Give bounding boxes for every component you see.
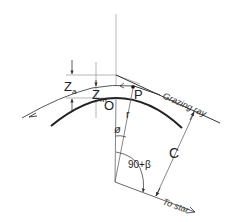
label-point-p: P <box>134 87 143 102</box>
label-grazing-ray: Grazing ray <box>161 91 208 119</box>
center-vertical-line <box>115 98 116 182</box>
label-origin-o: O <box>104 98 114 113</box>
label-to-star: To star <box>161 196 191 215</box>
atmosphere-arc <box>22 85 134 118</box>
chord-arrow-bottom <box>156 188 160 196</box>
beta-angle-arc <box>116 152 144 192</box>
label-za: Za <box>64 79 77 96</box>
phi-angle-arc <box>115 136 126 137</box>
label-chord-c: C <box>169 145 179 161</box>
label-radius-r: r <box>126 108 130 120</box>
label-angle-90-beta: 90+β <box>128 159 151 170</box>
label-angle-phi: ø <box>114 123 121 135</box>
grazing-ray-geometry-diagram: Za Zm O P r ø 90+β C Grazing ray To star <box>0 0 229 222</box>
